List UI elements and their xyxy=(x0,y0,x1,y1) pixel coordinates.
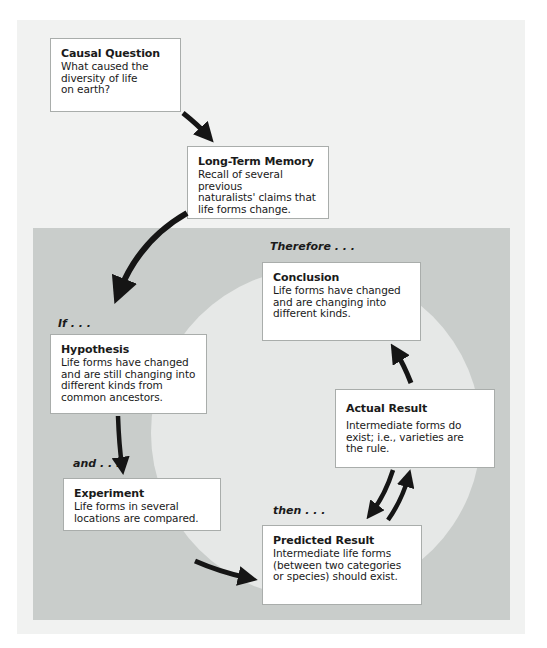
actual-result-box: Actual Result Intermediate forms do exis… xyxy=(335,389,495,468)
causal-question-box: Causal Question What caused the diversit… xyxy=(50,38,181,112)
long-term-memory-text: Recall of several previous naturalists' … xyxy=(198,169,318,215)
hypothesis-title: Hypothesis xyxy=(61,343,196,356)
hypothesis-text: Life forms have changed and are still ch… xyxy=(61,357,196,403)
actual-result-text: Intermediate forms do exist; i.e., varie… xyxy=(346,420,484,455)
long-term-memory-title: Long-Term Memory xyxy=(198,155,318,168)
therefore-label: Therefore . . . xyxy=(270,240,355,253)
conclusion-box: Conclusion Life forms have changed and a… xyxy=(262,262,421,341)
experiment-title: Experiment xyxy=(74,487,210,500)
predicted-result-box: Predicted Result Intermediate life forms… xyxy=(262,525,422,605)
hypothesis-box: Hypothesis Life forms have changed and a… xyxy=(50,334,207,414)
conclusion-title: Conclusion xyxy=(273,271,410,284)
predicted-result-text: Intermediate life forms (between two cat… xyxy=(273,548,411,583)
actual-result-title: Actual Result xyxy=(346,402,484,415)
causal-question-text: What caused the diversity of life on ear… xyxy=(61,61,170,96)
experiment-box: Experiment Life forms in several locatio… xyxy=(63,478,221,531)
causal-question-title: Causal Question xyxy=(61,47,170,60)
experiment-text: Life forms in several locations are comp… xyxy=(74,501,210,524)
conclusion-text: Life forms have changed and are changing… xyxy=(273,285,410,320)
long-term-memory-box: Long-Term Memory Recall of several previ… xyxy=(187,146,329,219)
and-label: and . . . xyxy=(73,457,120,470)
predicted-result-title: Predicted Result xyxy=(273,534,411,547)
then-label: then . . . xyxy=(273,504,325,517)
if-label: If . . . xyxy=(58,317,91,330)
